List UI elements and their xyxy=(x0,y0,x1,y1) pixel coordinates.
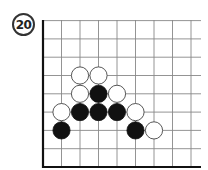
go-board xyxy=(0,0,208,170)
white-stone-icon xyxy=(145,122,162,139)
stones-layer xyxy=(53,67,163,139)
black-stone-icon xyxy=(90,104,107,121)
white-stone-icon xyxy=(53,104,70,121)
black-stone-icon xyxy=(71,104,88,121)
black-stone-icon xyxy=(90,85,107,102)
white-stone-icon xyxy=(90,67,107,84)
black-stone-icon xyxy=(127,122,144,139)
black-stone-icon xyxy=(53,122,70,139)
black-stone-icon xyxy=(108,104,125,121)
white-stone-icon xyxy=(71,85,88,102)
white-stone-icon xyxy=(71,67,88,84)
white-stone-icon xyxy=(108,85,125,102)
white-stone-icon xyxy=(127,104,144,121)
